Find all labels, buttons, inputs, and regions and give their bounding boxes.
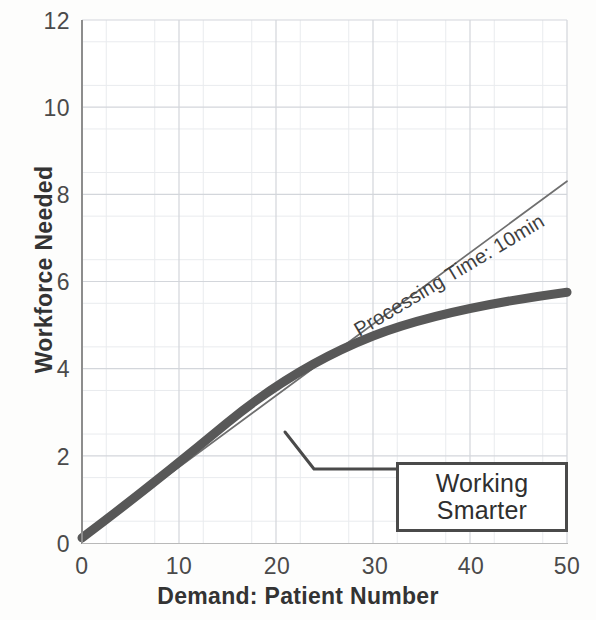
y-tick-label-2: 2 (10, 444, 70, 471)
x-tick-label-10: 10 (149, 553, 209, 580)
x-axis-spine (82, 543, 568, 544)
y-axis-title: Workforce Needed (31, 120, 58, 420)
y-axis-spine (81, 20, 83, 544)
x-tick-label-30: 30 (345, 553, 405, 580)
chart-figure: Processing Time: 10min 12 10 8 6 4 2 0 0… (0, 0, 596, 620)
y-tick-label-12: 12 (10, 8, 70, 35)
x-tick-label-40: 40 (441, 553, 501, 580)
y-tick-label-10: 10 (10, 95, 70, 122)
working-smarter-callout-box: Working Smarter (396, 462, 568, 532)
x-tick-label-0: 0 (52, 553, 112, 580)
x-tick-label-50: 50 (537, 553, 596, 580)
x-axis-title: Demand: Patient Number (0, 583, 596, 610)
callout-text-line-2: Smarter (437, 497, 527, 524)
callout-leader-line (285, 432, 396, 469)
x-tick-label-20: 20 (247, 553, 307, 580)
callout-text-line-1: Working (436, 470, 529, 497)
